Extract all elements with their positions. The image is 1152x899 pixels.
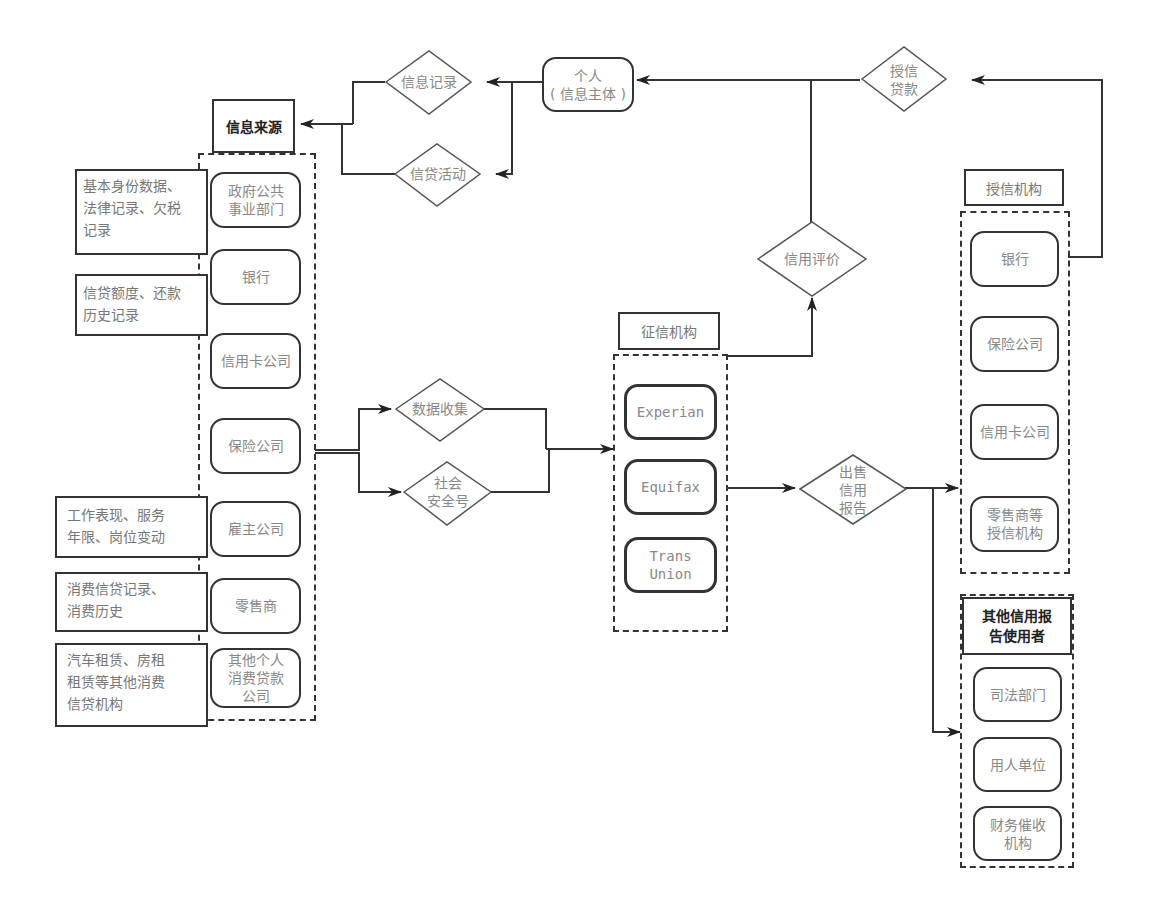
- bureau-transunion[interactable]: Trans Union: [624, 537, 717, 593]
- arrow-sell-to-other-users: [933, 488, 960, 732]
- line-credit-activity-out: [342, 124, 395, 174]
- arrow-bureaus-to-rating: [728, 298, 812, 356]
- note-government: 基本身份数据、 法律记录、欠税 记录: [75, 169, 208, 255]
- note-bank: 信贷额度、还款 历史记录: [75, 274, 208, 336]
- lender-credit-card[interactable]: 信用卡公司: [970, 404, 1059, 460]
- arrow-individual-to-credit-activity: [496, 82, 512, 174]
- user-judicial[interactable]: 司法部门: [973, 667, 1062, 722]
- decision-credit-activity: 信贷活动: [395, 158, 480, 190]
- info-source-bank[interactable]: 银行: [210, 249, 301, 305]
- info-source-other-lenders[interactable]: 其他个人 消费贷款 公司: [210, 648, 301, 708]
- decision-sell-report: 出售 信用 报告: [800, 462, 906, 518]
- info-source-insurance[interactable]: 保险公司: [210, 418, 301, 474]
- arrow-to-ssn: [359, 453, 401, 492]
- note-employer: 工作表现、服务 年限、岗位变动: [55, 496, 208, 558]
- bureau-equifax[interactable]: Equifax: [624, 459, 717, 515]
- lenders-title: 授信机构: [964, 169, 1064, 206]
- line-data-collection-out: [484, 409, 546, 449]
- bureau-experian[interactable]: Experian: [624, 384, 717, 440]
- user-employer[interactable]: 用人单位: [973, 737, 1062, 792]
- arrow-to-data-collection: [359, 409, 391, 450]
- note-retailer: 消费信贷记录、 消费历史: [55, 572, 208, 632]
- decision-ssn: 社会 安全号: [404, 472, 491, 512]
- info-sources-title: 信息来源: [212, 99, 295, 153]
- lender-retailers[interactable]: 零售商等 授信机构: [970, 496, 1059, 552]
- info-source-employer[interactable]: 雇主公司: [210, 501, 301, 557]
- decision-credit-rating: 信用评价: [758, 243, 866, 275]
- lender-insurance[interactable]: 保险公司: [970, 316, 1059, 372]
- individual-node[interactable]: 个人 ( 信息主体 ): [542, 57, 634, 112]
- decision-data-collection: 数据收集: [396, 393, 484, 425]
- line-ssn-out: [491, 449, 549, 492]
- lender-bank[interactable]: 银行: [970, 231, 1059, 287]
- decision-info-record: 信息记录: [386, 66, 472, 98]
- credit-bureaus-title: 征信机构: [618, 312, 720, 350]
- info-source-credit-card[interactable]: 信用卡公司: [210, 333, 301, 389]
- user-collection-agency[interactable]: 财务催收 机构: [973, 806, 1062, 861]
- note-other-lenders: 汽车租赁、房租 租赁等其他消费 信贷机构: [55, 643, 208, 727]
- info-source-retailer[interactable]: 零售商: [210, 578, 301, 634]
- info-source-government[interactable]: 政府公共 事业部门: [210, 172, 301, 228]
- decision-grant-loan: 授信 贷款: [862, 60, 946, 100]
- other-users-title: 其他信用报 告使用者: [962, 597, 1072, 655]
- line-info-record-out: [353, 82, 385, 124]
